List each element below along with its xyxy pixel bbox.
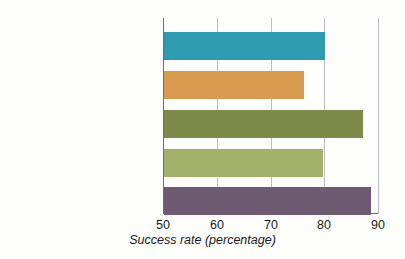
bar-chart-figure: Psychodynamic Person- or client-centered… (0, 0, 405, 259)
gridline-90 (378, 18, 379, 214)
x-tick-80: 80 (304, 218, 344, 232)
x-tick-90: 90 (358, 218, 398, 232)
x-tick-70: 70 (251, 218, 291, 232)
bar-fill (164, 32, 325, 60)
bar-cognitive-behavioral (164, 187, 371, 215)
plot-area: 50 60 70 80 90 (163, 18, 378, 214)
bar-behavioral-therapy (164, 149, 323, 177)
bar-fill (164, 149, 323, 177)
x-tick-60: 60 (197, 218, 237, 232)
bar-psychodynamic (164, 32, 325, 60)
x-axis-title: Success rate (percentage) (0, 233, 405, 247)
x-tick-50: 50 (143, 218, 183, 232)
bar-fill (164, 110, 363, 138)
bar-systematic-desensitization (164, 110, 363, 138)
bar-person-or-client-centered (164, 71, 304, 99)
bar-fill (164, 71, 304, 99)
bar-fill (164, 187, 371, 215)
